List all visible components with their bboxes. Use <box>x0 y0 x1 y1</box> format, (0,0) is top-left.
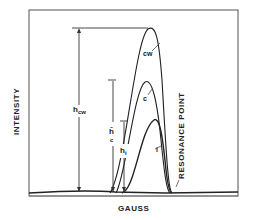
resonance-point-label: RESONANCE POINT <box>177 92 186 179</box>
resonance-diagram: hcw ĥc hi cw c i RESONANCE POINT INTENSI… <box>0 0 254 220</box>
i-curve-label: i <box>156 146 158 153</box>
c-leader <box>148 89 152 95</box>
x-axis-label: GAUSS <box>118 204 150 213</box>
hcw-arrowhead-top <box>77 28 81 33</box>
hc-label: ĥc <box>109 127 114 143</box>
c-curve-label: c <box>143 95 147 102</box>
resonance-pointer <box>176 180 179 187</box>
cw-curve-label: cw <box>143 50 153 57</box>
baseline <box>29 191 238 193</box>
y-axis-label: INTENSITY <box>12 88 21 135</box>
curve-cw <box>110 28 172 193</box>
plot-frame <box>29 10 238 196</box>
